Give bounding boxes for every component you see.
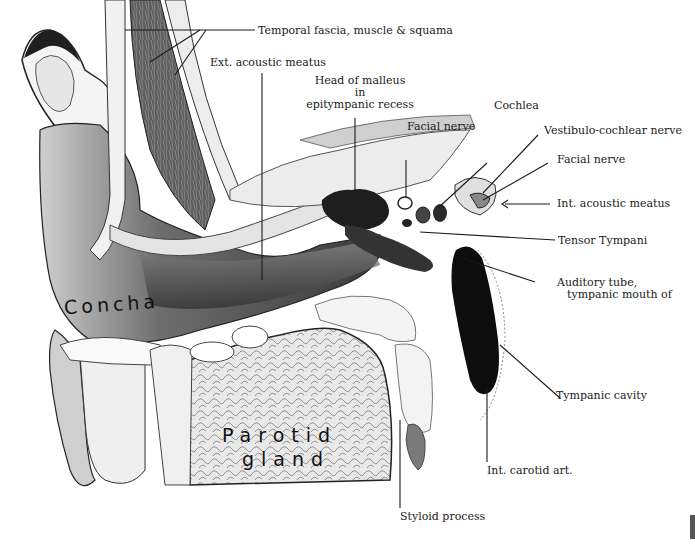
label-facial-nerve-right: Facial nerve <box>557 154 625 166</box>
label-ext-meatus: Ext. acoustic meatus <box>210 57 326 69</box>
label-auditory-line2: tympanic mouth of <box>557 289 672 301</box>
label-malleus-line3: epitympanic recess <box>300 99 420 111</box>
label-parotid: Parotid <box>222 424 337 446</box>
label-int-carotid-art: Int. carotid art. <box>487 465 573 477</box>
label-gland: gland <box>242 448 330 470</box>
label-temporal: Temporal fascia, muscle & squama <box>258 25 453 37</box>
corner-marker <box>690 515 695 539</box>
label-head-of-malleus: Head of malleus in epitympanic recess <box>300 75 420 111</box>
label-tympanic-cavity: Tympanic cavity <box>556 390 647 402</box>
label-int-acoustic-meatus: Int. acoustic meatus <box>557 198 670 210</box>
label-facial-nerve-upper: Facial nerve <box>407 121 475 133</box>
tympanic-cavity-shape <box>452 246 500 394</box>
label-auditory-tube: Auditory tube, tympanic mouth of <box>557 277 672 301</box>
label-vestibulo-cochlear-nerve: Vestibulo-cochlear nerve <box>544 125 682 137</box>
label-tensor-tympani: Tensor Tympani <box>558 235 647 247</box>
label-styloid-process: Styloid process <box>400 511 485 523</box>
label-cochlea: Cochlea <box>494 100 539 112</box>
